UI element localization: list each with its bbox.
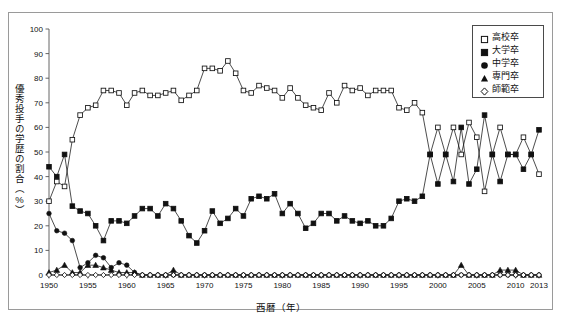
legend-item-2[interactable]: 大学卒 <box>478 43 540 56</box>
x-tick-label: 1990 <box>351 281 369 290</box>
y-tick-label: 10 <box>34 246 43 255</box>
y-tick-label: 70 <box>34 99 43 108</box>
y-tick-label: 50 <box>34 148 43 157</box>
chart-plot-area: 0102030405060708090100195019551960196519… <box>9 13 552 309</box>
x-tick-label: 1970 <box>196 281 214 290</box>
legend-item-1[interactable]: 高校卒 <box>478 30 540 43</box>
y-tick-label: 40 <box>34 173 43 182</box>
x-tick-label: 2005 <box>468 281 486 290</box>
legend-marker <box>478 70 491 81</box>
open-diamond-icon <box>478 86 491 97</box>
x-tick-label: 2013 <box>530 281 548 290</box>
legend-label: 中学卒 <box>491 56 519 69</box>
y-tick-label: 80 <box>34 74 43 83</box>
legend-item-4[interactable]: 専門卒 <box>478 69 540 82</box>
y-tick-label: 30 <box>34 197 43 206</box>
y-tick-label: 90 <box>34 50 43 59</box>
y-axis-title: 優秀投手の学歴の割合（%） <box>11 64 27 234</box>
legend-label: 師範卒 <box>491 82 519 95</box>
x-tick-label: 1995 <box>390 281 408 290</box>
x-tick-label: 1960 <box>118 281 136 290</box>
legend-item-5[interactable]: 師範卒 <box>478 82 540 95</box>
legend-marker <box>478 44 491 55</box>
x-tick-label: 1975 <box>235 281 253 290</box>
legend-label: 大学卒 <box>491 43 519 56</box>
x-tick-label: 1980 <box>273 281 291 290</box>
top-cropped-text-strip <box>0 0 561 11</box>
x-tick-label: 1965 <box>157 281 175 290</box>
y-tick-label: 100 <box>30 25 44 34</box>
legend-label: 専門卒 <box>491 69 519 82</box>
y-tick-label: 60 <box>34 123 43 132</box>
legend-marker <box>478 57 491 68</box>
x-tick-label: 1955 <box>79 281 97 290</box>
x-tick-label: 1985 <box>312 281 330 290</box>
x-tick-label: 1950 <box>40 281 58 290</box>
series-2 <box>47 113 542 246</box>
y-tick-label: 0 <box>39 271 44 280</box>
legend-marker <box>478 31 491 42</box>
legend-item-3[interactable]: 中学卒 <box>478 56 540 69</box>
x-tick-label: 2000 <box>429 281 447 290</box>
chart-legend: 高校卒大学卒中学卒専門卒師範卒 <box>472 25 544 98</box>
legend-marker <box>478 83 491 94</box>
legend-label: 高校卒 <box>491 30 519 43</box>
chart-screenshot: 0102030405060708090100195019551960196519… <box>0 0 561 322</box>
x-axis-title: 西暦（年） <box>0 300 561 314</box>
x-tick-label: 2010 <box>507 281 525 290</box>
y-tick-label: 20 <box>34 222 43 231</box>
